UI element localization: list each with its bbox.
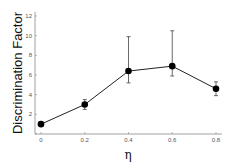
- y-tick-label: 2: [18, 111, 32, 117]
- x-tick-label: 0.4: [124, 137, 132, 143]
- y-tick-label: 12: [18, 13, 32, 19]
- chart-container: Discrimination Factor η 24681012 00.20.4…: [0, 0, 233, 165]
- x-tick-label: 0.8: [212, 137, 220, 143]
- data-point-marker: [169, 63, 176, 70]
- line-chart-plot: [0, 0, 233, 165]
- x-tick-label: 0.6: [168, 137, 176, 143]
- x-tick-label: 0: [39, 137, 42, 143]
- x-tick-label: 0.2: [81, 137, 89, 143]
- data-point-marker: [125, 68, 132, 75]
- data-point-marker: [213, 85, 220, 92]
- y-tick-label: 6: [18, 72, 32, 78]
- data-point-marker: [38, 121, 45, 128]
- y-tick-label: 4: [18, 92, 32, 98]
- x-axis-label: η: [124, 148, 131, 162]
- y-tick-label: 8: [18, 52, 32, 58]
- data-point-marker: [81, 101, 88, 108]
- y-tick-label: 10: [18, 33, 32, 39]
